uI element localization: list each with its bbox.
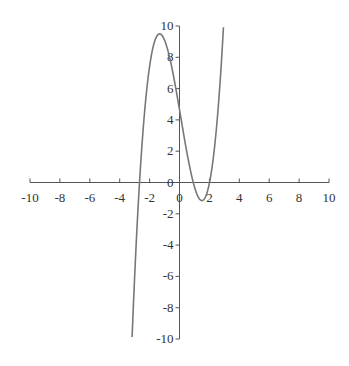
x-tick-label: 0 (176, 190, 183, 205)
cubic-function-plot: -10-8-6-4-20246810-10-8-6-4-20246810 (0, 0, 349, 366)
x-tick-label: -8 (54, 190, 65, 205)
x-tick-label: 8 (296, 190, 303, 205)
y-tick-label: 6 (167, 81, 174, 96)
x-tick-label: 10 (323, 190, 336, 205)
y-tick-label: 10 (161, 18, 174, 33)
y-tick-label: -8 (163, 300, 174, 315)
x-tick-label: 4 (236, 190, 243, 205)
y-tick-label: 2 (167, 143, 174, 158)
axes: -10-8-6-4-20246810-10-8-6-4-20246810 (21, 18, 335, 346)
x-tick-label: 6 (266, 190, 273, 205)
y-tick-label: -4 (163, 237, 174, 252)
y-tick-label: -6 (163, 268, 174, 283)
x-tick-label: -6 (84, 190, 95, 205)
y-tick-label: 4 (167, 112, 174, 127)
y-tick-label: -2 (163, 206, 174, 221)
x-tick-label: -4 (114, 190, 125, 205)
x-tick-label: -2 (144, 190, 155, 205)
x-tick-label: -10 (21, 190, 38, 205)
y-tick-label: -10 (156, 331, 173, 346)
y-tick-label: 0 (167, 175, 174, 190)
